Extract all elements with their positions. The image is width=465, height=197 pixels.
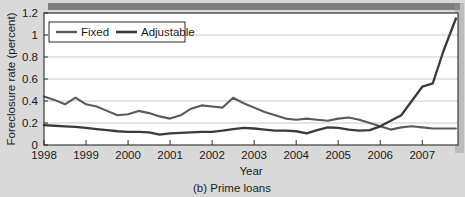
chart-legend: Fixed Adjustable [49, 22, 195, 42]
x-tick-label: 2005 [325, 149, 351, 161]
y-axis-title: Foreclosure rate (percent) [5, 12, 17, 145]
y-tick-label: 0.2 [22, 117, 38, 129]
figure-container: 00.20.40.60.811.2 1998199920002001200220… [0, 0, 465, 197]
x-tick-label: 2004 [283, 149, 309, 161]
x-axis-title: Year [239, 165, 262, 177]
x-tick-label: 1999 [73, 149, 99, 161]
y-tick-label: 1.2 [22, 7, 38, 19]
x-tick-label: 2006 [367, 149, 393, 161]
x-tick-label: 2000 [115, 149, 141, 161]
y-tick-label: 0.8 [22, 51, 38, 63]
y-tick-label: 0.4 [22, 95, 39, 107]
prime-loans-line-chart: 00.20.40.60.811.2 1998199920002001200220… [0, 0, 465, 197]
x-tick-label: 2007 [409, 149, 435, 161]
x-tick-label: 1998 [31, 149, 57, 161]
x-tick-label: 2003 [241, 149, 267, 161]
top-shadow-band [48, 3, 460, 10]
x-tick-label: 2001 [157, 149, 183, 161]
figure-caption: (b) Prime loans [193, 182, 271, 194]
legend-label-adjustable: Adjustable [141, 26, 195, 38]
y-tick-label: 1 [32, 29, 38, 41]
y-tick-label: 0.6 [22, 73, 38, 85]
x-tick-label: 2002 [199, 149, 225, 161]
legend-label-fixed: Fixed [81, 26, 109, 38]
